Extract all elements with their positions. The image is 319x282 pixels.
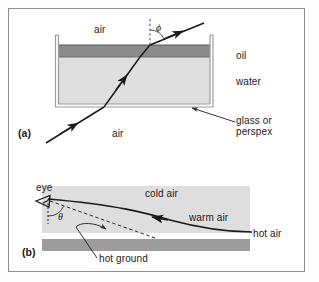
label-air-bottom: air [112, 128, 123, 139]
label-hot-ground: hot ground [99, 253, 148, 264]
panel-a-graphics [46, 19, 235, 143]
figure-root: (a) air air oil water glass or perspex ϕ… [0, 0, 319, 282]
label-cold-air: cold air [145, 188, 178, 199]
label-oil: oil [236, 50, 246, 61]
panel-b-label: (b) [22, 247, 36, 258]
label-warm-air: warm air [189, 212, 228, 223]
vessel-leader-line [192, 108, 235, 122]
label-theta-angle: θ [58, 211, 63, 222]
label-air-top: air [94, 24, 105, 35]
label-hot-air: hot air [253, 228, 282, 239]
label-vessel-line2: perspex [236, 126, 272, 137]
label-vessel-line1: glass or [236, 115, 272, 126]
figure-graphics [0, 0, 319, 282]
panel-a-label: (a) [18, 128, 31, 139]
label-phi-angle: ϕ [156, 22, 161, 33]
label-water: water [236, 76, 261, 87]
label-eye: eye [36, 182, 52, 193]
oil-layer [58, 45, 210, 57]
hot-ground-band [42, 239, 250, 251]
